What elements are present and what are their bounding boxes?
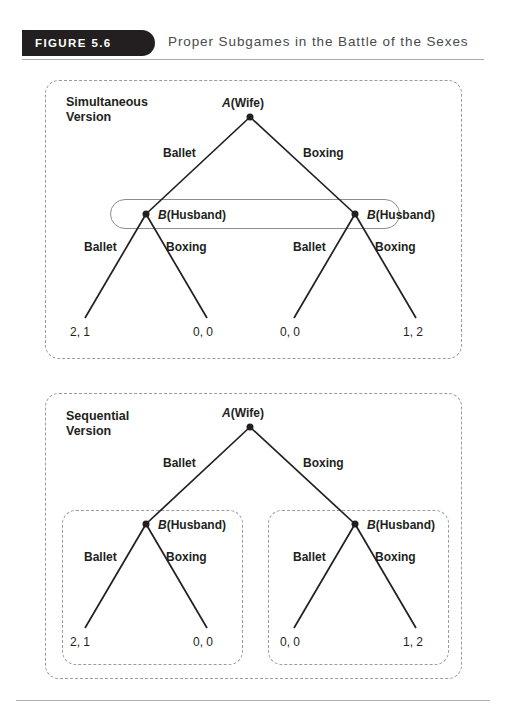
panel-sequential-caption: Sequential Version (66, 409, 129, 439)
header-divider (22, 59, 484, 60)
node-b-right-sequential (352, 521, 359, 528)
node-label-b-left-sequential: B(Husband) (158, 518, 226, 532)
payoff-sequential-1: 2, 1 (70, 635, 90, 649)
player-letter-a: A (222, 96, 231, 110)
player-role-wife-seq: (Wife) (231, 406, 264, 420)
player-letter-b-right-seq: B (367, 518, 376, 532)
footer-divider (16, 700, 490, 701)
edge-label-root-ballet-sequential: Ballet (163, 456, 196, 470)
player-letter-b-left-seq: B (158, 518, 167, 532)
player-letter-b-right: B (367, 208, 376, 222)
edge-label-right-boxing-simultaneous: Boxing (375, 240, 416, 254)
panel-simultaneous-caption: Simultaneous Version (66, 95, 148, 125)
edge-label-root-ballet-simultaneous: Ballet (163, 146, 196, 160)
payoff-sequential-3: 0, 0 (280, 635, 300, 649)
edge-label-left-boxing-simultaneous: Boxing (166, 240, 207, 254)
edge-label-right-ballet-sequential: Ballet (293, 550, 326, 564)
player-role-husband-left: (Husband) (167, 208, 226, 222)
node-root-a-simultaneous (247, 114, 254, 121)
payoff-sequential-2: 0, 0 (193, 635, 213, 649)
player-letter-b-left: B (158, 208, 167, 222)
node-root-a-sequential (247, 424, 254, 431)
figure-number-label: FIGURE 5.6 (22, 37, 112, 49)
player-role-husband-right: (Husband) (376, 208, 435, 222)
payoff-simultaneous-3: 0, 0 (280, 325, 300, 339)
edge-label-left-boxing-sequential: Boxing (166, 550, 207, 564)
player-role-husband-left-seq: (Husband) (167, 518, 226, 532)
payoff-simultaneous-1: 2, 1 (70, 325, 90, 339)
player-letter-a-seq: A (222, 406, 231, 420)
edge-label-left-ballet-sequential: Ballet (84, 550, 117, 564)
player-role-husband-right-seq: (Husband) (376, 518, 435, 532)
node-b-left-sequential (143, 521, 150, 528)
figure-title: Proper Subgames in the Battle of the Sex… (168, 34, 468, 49)
node-label-b-right-simultaneous: B(Husband) (367, 208, 435, 222)
node-label-b-left-simultaneous: B(Husband) (158, 208, 226, 222)
edge-label-right-boxing-sequential: Boxing (375, 550, 416, 564)
figure-number-badge: FIGURE 5.6 (22, 30, 155, 56)
edge-label-right-ballet-simultaneous: Ballet (293, 240, 326, 254)
edge-label-root-boxing-sequential: Boxing (303, 456, 344, 470)
node-label-b-right-sequential: B(Husband) (367, 518, 435, 532)
player-role-wife: (Wife) (231, 96, 264, 110)
payoff-simultaneous-4: 1, 2 (403, 325, 423, 339)
figure-page: FIGURE 5.6 Proper Subgames in the Battle… (0, 0, 506, 725)
figure-header: FIGURE 5.6 Proper Subgames in the Battle… (0, 30, 506, 60)
edge-label-root-boxing-simultaneous: Boxing (303, 146, 344, 160)
node-b-right-simultaneous (352, 211, 359, 218)
node-b-left-simultaneous (143, 211, 150, 218)
payoff-simultaneous-2: 0, 0 (193, 325, 213, 339)
payoff-sequential-4: 1, 2 (403, 635, 423, 649)
node-label-root-a-sequential: A(Wife) (222, 406, 264, 420)
edge-label-left-ballet-simultaneous: Ballet (84, 240, 117, 254)
node-label-root-a-simultaneous: A(Wife) (222, 96, 264, 110)
